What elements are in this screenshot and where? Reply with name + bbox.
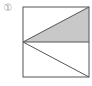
square-figure <box>0 0 92 86</box>
lower-diagonal <box>23 42 89 77</box>
